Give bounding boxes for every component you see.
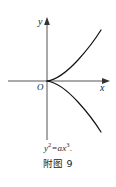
equation-equals-sign: = (52, 143, 57, 153)
caption-block: y2=ax3. 附图 9 (0, 143, 116, 169)
plot-area: y x O (0, 0, 116, 140)
y-axis-arrow-icon (44, 17, 50, 25)
equation-y-exponent: 2 (48, 141, 51, 148)
curve-upper-branch (47, 30, 101, 81)
figure-number-caption: 附图 9 (0, 158, 116, 169)
equation-caption: y2=ax3. (0, 143, 116, 154)
x-axis-label: x (100, 83, 104, 93)
curve-lower-branch (47, 81, 101, 132)
coordinate-plot-svg (0, 0, 116, 140)
y-axis-label: y (38, 17, 42, 27)
origin-label: O (37, 83, 44, 92)
figure-container: y x O y2=ax3. 附图 9 (0, 0, 116, 187)
equation-period: . (70, 143, 72, 153)
